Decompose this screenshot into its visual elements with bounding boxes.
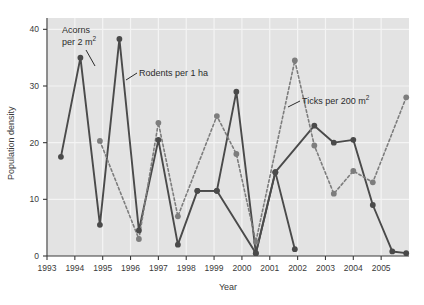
x-tick-label: 1994 <box>65 263 84 273</box>
data-point <box>194 188 200 194</box>
x-tick-label: 2005 <box>372 263 391 273</box>
data-point <box>214 113 220 119</box>
x-axis-tick-marks <box>47 256 381 260</box>
data-point <box>350 168 356 174</box>
data-point <box>175 242 181 248</box>
data-point <box>233 151 239 157</box>
data-point <box>331 191 337 197</box>
x-tick-label: 1998 <box>177 263 196 273</box>
data-point <box>350 137 356 143</box>
y-tick-label: 20 <box>30 138 40 148</box>
y-tick-label: 0 <box>34 251 39 261</box>
y-tick-label: 30 <box>30 81 40 91</box>
data-point <box>370 179 376 185</box>
annotation-ticks-label: Ticks per 200 m2 <box>302 94 370 106</box>
x-tick-label: 1997 <box>149 263 168 273</box>
x-axis-title: Year <box>219 282 237 292</box>
data-point <box>214 188 220 194</box>
data-point <box>403 250 409 256</box>
data-point <box>403 94 409 100</box>
data-point <box>58 154 64 160</box>
x-tick-label: 2004 <box>344 263 363 273</box>
data-point <box>136 236 142 242</box>
x-tick-label: 2002 <box>288 263 307 273</box>
data-point <box>292 58 298 64</box>
x-tick-label: 1995 <box>93 263 112 273</box>
x-tick-label: 2001 <box>260 263 279 273</box>
x-tick-label: 1999 <box>205 263 224 273</box>
x-tick-label: 1996 <box>121 263 140 273</box>
x-tick-label: 1993 <box>38 263 57 273</box>
data-point <box>155 120 161 126</box>
x-tick-label: 2000 <box>232 263 251 273</box>
data-point <box>233 89 239 95</box>
data-point <box>155 137 161 143</box>
data-point <box>136 228 142 234</box>
annotation-acorns-line2: per 2 m2 <box>62 35 97 47</box>
data-point <box>78 55 84 61</box>
data-point <box>253 250 259 256</box>
data-point <box>370 202 376 208</box>
data-point <box>331 140 337 146</box>
annotation-acorns-line1: Acorns <box>62 25 91 35</box>
y-tick-label: 10 <box>30 194 40 204</box>
chart-figure: 010203040 199319941995199619971998199920… <box>0 0 424 305</box>
data-point <box>253 239 259 245</box>
data-point <box>97 138 103 144</box>
data-point <box>311 123 317 129</box>
x-tick-label: 2003 <box>316 263 335 273</box>
x-axis-tick-labels: 1993199419951996199719981999200020012002… <box>38 263 391 273</box>
y-axis-title: Population density <box>6 106 16 180</box>
y-tick-label: 40 <box>30 24 40 34</box>
y-axis-tick-labels: 010203040 <box>30 24 40 261</box>
chart-svg: 010203040 199319941995199619971998199920… <box>0 0 424 305</box>
data-point <box>292 246 298 252</box>
data-point <box>272 169 278 175</box>
data-point <box>117 36 123 42</box>
data-point <box>175 213 181 219</box>
data-point <box>389 249 395 255</box>
annotation-rodents-label: Rodents per 1 ha <box>139 68 208 78</box>
data-point <box>311 143 317 149</box>
data-point <box>97 222 103 228</box>
